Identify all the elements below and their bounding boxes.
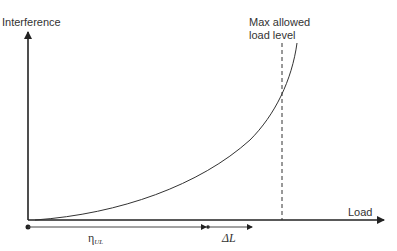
x-axis-label: Load [348, 206, 372, 218]
delta-l-label: ΔL [222, 232, 236, 244]
y-axis-label: Interference [2, 16, 61, 28]
interference-curve [35, 43, 297, 220]
diagram-canvas [0, 0, 397, 251]
eta-subscript: UL [94, 238, 103, 246]
eta-ul-label: ηUL [88, 232, 103, 248]
max-line-label-line2: load level [249, 29, 295, 41]
max-line-label-line1: Max allowed [249, 16, 310, 28]
